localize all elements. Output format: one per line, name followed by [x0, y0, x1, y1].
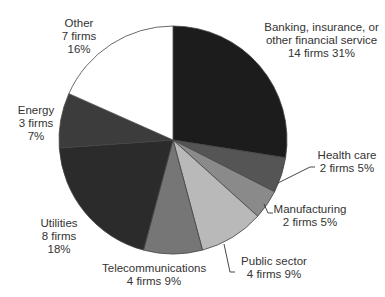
- label-manufacturing: Manufacturing 2 firms 5%: [270, 203, 350, 229]
- label-other: Other 7 firms 16%: [52, 17, 106, 56]
- label-public-line1: Public sector: [234, 255, 314, 268]
- label-public-sector: Public sector 4 firms 9%: [234, 255, 314, 281]
- label-manufacturing-line2: 2 firms 5%: [270, 216, 350, 229]
- label-telecommunications: Telecommunications 4 firms 9%: [102, 262, 206, 288]
- label-energy-line2: 3 firms: [10, 117, 62, 130]
- label-banking-line2: other financial service: [258, 34, 385, 47]
- label-other-line1: Other: [52, 17, 106, 30]
- label-other-line2: 7 firms: [52, 30, 106, 43]
- label-telecom-line2: 4 firms 9%: [102, 275, 206, 288]
- label-energy: Energy 3 firms 7%: [10, 104, 62, 143]
- label-banking-line1: Banking, insurance, or: [258, 21, 385, 34]
- label-utilities-line2: 8 firms: [33, 230, 85, 243]
- label-public-line2: 4 firms 9%: [234, 268, 314, 281]
- label-health-care: Health care 2 firms 5%: [312, 149, 382, 175]
- label-health-line2: 2 firms 5%: [312, 162, 382, 175]
- label-other-line3: 16%: [52, 43, 106, 56]
- label-health-line1: Health care: [312, 149, 382, 162]
- label-banking-line3: 14 firms 31%: [258, 47, 385, 60]
- label-utilities-line1: Utilities: [33, 217, 85, 230]
- label-manufacturing-line1: Manufacturing: [270, 203, 350, 216]
- label-telecom-line1: Telecommunications: [102, 262, 206, 275]
- label-utilities: Utilities 8 firms 18%: [33, 217, 85, 256]
- label-energy-line1: Energy: [10, 104, 62, 117]
- label-banking: Banking, insurance, or other financial s…: [258, 21, 385, 60]
- label-energy-line3: 7%: [10, 130, 62, 143]
- label-utilities-line3: 18%: [33, 243, 85, 256]
- pie-slices: [59, 26, 287, 254]
